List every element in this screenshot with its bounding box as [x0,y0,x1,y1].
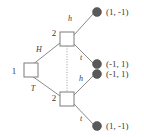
payoff-label-3: (-1, 1) [106,69,129,79]
game-tree-canvas: 1 2 2 H T h t h t (1, -1) (-1, 1) (-1, 1… [0,0,144,137]
action-label-T: T [31,84,36,93]
edge-upper-node-to-terminal-1 [74,14,93,35]
terminal-node-3 [93,70,102,79]
payoff-label-1: (1, -1) [106,7,129,17]
payoff-label-2: (-1, 1) [106,59,129,69]
game-tree-diagram: 1 2 2 H T h t h t (1, -1) (-1, 1) (-1, 1… [0,0,144,137]
action-label-H: H [35,45,43,54]
edge-upper-node-to-terminal-2 [74,44,93,63]
terminal-node-1 [93,8,102,17]
player-label-upper-node: 2 [52,28,57,38]
decision-node-upper-player2 [60,32,74,46]
action-label-upper-h: h [68,14,72,23]
action-label-lower-h: h [79,74,83,83]
action-label-upper-t: t [80,53,83,62]
player-label-lower-node: 2 [52,93,57,103]
edge-lower-node-to-terminal-4 [74,104,93,124]
payoff-label-4: (1, -1) [106,121,129,131]
decision-node-lower-player2 [60,92,74,106]
action-label-lower-t: t [80,114,83,123]
terminal-node-4 [93,122,102,131]
player-label-root: 1 [12,66,17,76]
decision-node-root-player1 [24,63,38,77]
terminal-node-2 [93,60,102,69]
edge-lower-node-to-terminal-3 [74,76,93,95]
